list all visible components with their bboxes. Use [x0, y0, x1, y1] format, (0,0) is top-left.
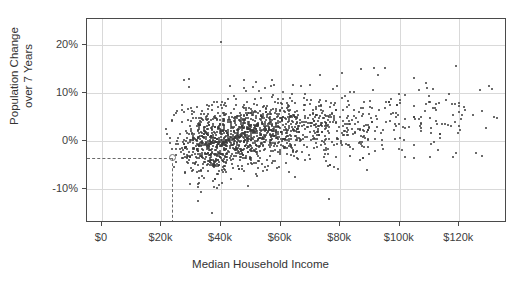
- data-point: [247, 185, 249, 187]
- data-point: [321, 125, 323, 127]
- data-point: [270, 85, 272, 87]
- data-point: [374, 138, 376, 140]
- data-point: [304, 93, 306, 95]
- data-point: [249, 158, 251, 160]
- data-point: [385, 121, 387, 123]
- data-point: [259, 110, 261, 112]
- data-point: [306, 136, 308, 138]
- data-point: [199, 138, 201, 140]
- data-point: [187, 162, 189, 164]
- data-point: [251, 114, 253, 116]
- data-point: [274, 118, 276, 120]
- data-point: [347, 134, 349, 136]
- data-point: [194, 138, 196, 140]
- data-point: [352, 148, 354, 150]
- data-point: [375, 115, 377, 117]
- data-point: [335, 121, 337, 123]
- data-point: [302, 134, 304, 136]
- data-point: [281, 103, 283, 105]
- data-point: [246, 101, 248, 103]
- data-point: [198, 157, 200, 159]
- data-point: [325, 124, 327, 126]
- data-point: [463, 106, 465, 108]
- x-tick-label: $120k: [443, 231, 473, 243]
- data-point: [420, 123, 422, 125]
- highlighted-point[interactable]: [169, 154, 176, 161]
- data-point: [426, 87, 428, 89]
- data-point: [220, 136, 222, 138]
- data-point: [250, 162, 252, 164]
- data-point: [165, 128, 167, 130]
- data-point: [381, 144, 383, 146]
- data-point: [318, 134, 320, 136]
- data-point: [291, 100, 293, 102]
- data-point: [206, 125, 208, 127]
- data-point: [418, 118, 420, 120]
- data-point: [173, 166, 175, 168]
- data-point: [230, 112, 232, 114]
- data-point: [336, 85, 338, 87]
- data-point: [232, 158, 234, 160]
- data-point: [243, 141, 245, 143]
- data-point: [185, 140, 187, 142]
- data-point: [191, 170, 193, 172]
- gridline-vertical: [340, 19, 341, 221]
- data-point: [342, 120, 344, 122]
- data-point: [430, 143, 432, 145]
- data-point: [242, 154, 244, 156]
- data-point: [436, 123, 438, 125]
- data-point: [214, 161, 216, 163]
- data-point: [404, 127, 406, 129]
- data-point: [344, 95, 346, 97]
- data-point: [329, 106, 331, 108]
- data-point: [330, 102, 332, 104]
- y-tick-mark: [82, 92, 86, 93]
- data-point: [171, 148, 173, 150]
- data-point: [347, 115, 349, 117]
- data-point: [188, 86, 190, 88]
- data-point: [445, 99, 447, 101]
- data-point: [247, 163, 249, 165]
- data-point: [225, 113, 227, 115]
- data-point: [256, 104, 258, 106]
- data-point: [452, 156, 454, 158]
- data-point: [444, 123, 446, 125]
- data-point: [282, 138, 284, 140]
- data-point: [269, 146, 271, 148]
- data-point: [235, 104, 237, 106]
- data-point: [253, 103, 255, 105]
- data-point: [289, 97, 291, 99]
- data-point: [233, 108, 235, 110]
- data-point: [215, 158, 217, 160]
- data-point: [256, 153, 258, 155]
- data-point: [212, 180, 214, 182]
- data-point: [385, 101, 387, 103]
- gridline-vertical: [459, 19, 460, 221]
- data-point: [414, 118, 416, 120]
- data-point: [240, 117, 242, 119]
- data-point: [287, 129, 289, 131]
- data-point: [448, 93, 450, 95]
- data-point: [301, 125, 303, 127]
- data-point: [223, 132, 225, 134]
- data-point: [324, 135, 326, 137]
- data-point: [256, 132, 258, 134]
- data-point: [229, 147, 231, 149]
- data-point: [236, 117, 238, 119]
- data-point: [309, 131, 311, 133]
- data-point: [258, 90, 260, 92]
- data-point: [320, 104, 322, 106]
- data-point: [354, 123, 356, 125]
- data-point: [424, 110, 426, 112]
- data-point: [491, 88, 493, 90]
- data-point: [239, 153, 241, 155]
- data-point: [319, 99, 321, 101]
- data-point: [284, 138, 286, 140]
- data-point: [241, 149, 243, 151]
- data-point: [264, 148, 266, 150]
- data-point: [233, 130, 235, 132]
- data-point: [432, 107, 434, 109]
- data-point: [259, 150, 261, 152]
- data-point: [371, 121, 373, 123]
- data-point: [271, 134, 273, 136]
